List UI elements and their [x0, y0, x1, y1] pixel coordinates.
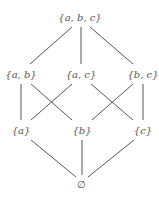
node-ac: {a, c} [65, 69, 98, 80]
edge-abc-ab [30, 27, 72, 64]
node-abc: {a, b, c} [57, 12, 102, 23]
hasse-edges [0, 0, 159, 198]
edge-a-empty [31, 140, 76, 177]
node-empty-set: ∅ [76, 179, 87, 190]
node-a: {a} [11, 125, 32, 136]
node-ab: {a, b} [4, 69, 37, 80]
edge-abc-bc [90, 27, 133, 64]
node-b: {b} [71, 125, 92, 136]
node-bc: {b, c} [126, 69, 159, 80]
edge-c-empty [88, 140, 134, 177]
node-c: {c} [133, 125, 153, 136]
